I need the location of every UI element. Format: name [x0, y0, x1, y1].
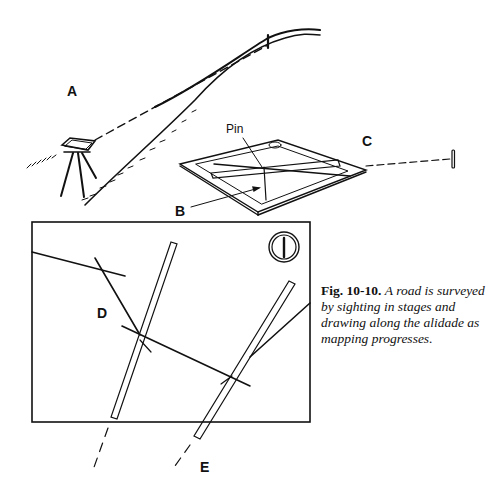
- plane-table-board: [180, 138, 366, 215]
- north-arrow-icon: [269, 232, 299, 262]
- map-sheet: [32, 222, 310, 422]
- traverse-line-1: [32, 252, 125, 276]
- label-a: A: [67, 83, 77, 99]
- survey-rod-c: [452, 150, 455, 168]
- label-c: C: [362, 133, 372, 149]
- label-e: E: [200, 459, 209, 475]
- figure-caption: Fig. 10-10. A road is surveyed by sighti…: [321, 283, 497, 347]
- plane-table-tripod: [61, 138, 96, 197]
- alidade-ruler-1: [111, 242, 177, 419]
- ground-hatching-left: [27, 155, 56, 168]
- label-d: D: [97, 305, 107, 321]
- caption-number: Fig. 10-10.: [321, 283, 381, 298]
- survey-diagram: [0, 0, 497, 497]
- label-b: B: [175, 203, 185, 219]
- label-pin: Pin: [226, 122, 243, 136]
- sight-line-c: [366, 159, 450, 166]
- sight-extension-1: [93, 428, 108, 470]
- pin-pointer-line: [243, 138, 262, 167]
- alidade-ruler-2: [194, 281, 295, 439]
- road-upper-edge: [155, 29, 320, 107]
- traverse-line-2: [95, 258, 140, 335]
- ground-hatching-slope: [82, 110, 196, 200]
- b-pointer-line: [191, 188, 259, 207]
- sight-extension-2: [172, 445, 190, 470]
